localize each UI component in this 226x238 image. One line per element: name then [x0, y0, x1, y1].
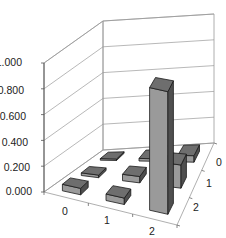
depth-tick-label: 0 — [216, 157, 222, 168]
chart-bars — [62, 78, 199, 215]
depth-tick-mark — [189, 198, 192, 199]
y-tick-label: 0.000 — [0, 186, 32, 197]
left-wall — [44, 21, 103, 192]
gridline — [103, 14, 214, 21]
bar — [123, 166, 147, 183]
x-tick-label: 0 — [62, 206, 68, 217]
depth-tick-mark — [177, 225, 180, 226]
gridline — [44, 21, 103, 63]
gridline — [44, 73, 103, 115]
gridline — [44, 124, 103, 166]
y-tick-label: 1.000 — [0, 57, 22, 68]
bar-side-face — [168, 81, 174, 215]
gridline — [44, 98, 103, 140]
bar — [100, 152, 124, 161]
x-tick-label: 2 — [149, 226, 155, 237]
bar — [106, 186, 131, 205]
bar — [81, 167, 106, 178]
bar-front-face — [150, 88, 168, 215]
gridline — [103, 40, 214, 47]
gridline — [44, 47, 103, 89]
depth-tick-label: 1 — [206, 178, 212, 189]
bar — [150, 78, 174, 215]
depth-tick-label: 2 — [193, 202, 199, 213]
depth-tick-mark — [202, 170, 205, 171]
x-tick-label: 1 — [104, 215, 110, 226]
depth-tick-mark — [214, 143, 217, 144]
bar — [62, 178, 88, 195]
y-tick-label: 0.200 — [0, 162, 30, 173]
y-tick-label: 0.400 — [0, 137, 28, 148]
gridline — [103, 66, 214, 73]
bar-top-face — [100, 152, 124, 159]
y-tick-label: 0.600 — [0, 111, 26, 122]
y-tick-label: 0.800 — [0, 85, 24, 96]
